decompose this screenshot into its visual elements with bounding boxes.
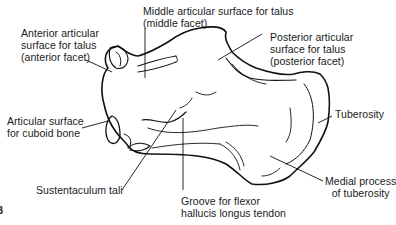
panel-marker: B [0,205,3,216]
label-cuboid: Articular surface for cuboid bone [7,115,84,139]
leader-posterior-facet [218,34,262,60]
label-anterior-facet: Anterior articular surface for talus (an… [21,27,99,63]
leader-cuboid [82,121,108,128]
leader-tuberosity [318,116,332,123]
leader-medial-process [270,156,323,181]
label-sustentaculum: Sustentaculum tali [36,184,123,196]
label-posterior-facet: Posterior articular surface for talus (p… [270,31,353,67]
label-medial-process: Medial process of tuberosity [325,175,396,199]
label-tuberosity: Tuberosity [335,108,384,120]
label-groove: Groove for flexor hallucis longus tendon [181,195,286,219]
label-middle-facet: Middle articular surface for talus (midd… [143,5,294,29]
